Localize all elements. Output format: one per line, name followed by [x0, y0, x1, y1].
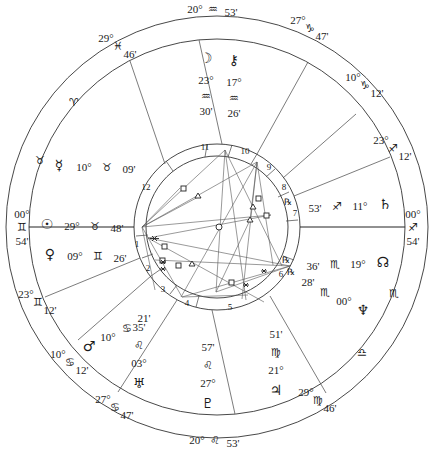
moon-degree: 23° — [198, 75, 213, 86]
pluto-degree: 27° — [200, 378, 215, 389]
moon-icon: ☽ — [200, 53, 213, 64]
cusp-11-degree: 27° — [290, 15, 305, 26]
sextile-aspect-icon — [261, 269, 267, 273]
libra-sign-icon: ♎ — [357, 347, 367, 358]
cusp-6-minute: 46' — [324, 403, 337, 414]
cusp-ht-left-sign-icon: ♓ — [113, 41, 123, 52]
house-number-10: 10 — [241, 146, 250, 157]
cusp-asc-sign-icon: ♊ — [17, 222, 27, 233]
mercury-degree: 10° — [76, 162, 91, 173]
cusp-4-pre-degree: 27° — [95, 394, 110, 405]
trine-aspect-icon — [250, 204, 256, 209]
house-number-9: 9 — [267, 162, 272, 173]
cusp-ht-left-degree: 29° — [98, 33, 113, 44]
square-aspect-icon — [256, 196, 261, 201]
cusp-12-minute: 12' — [371, 88, 384, 99]
sun-sign-icon: ♉ — [90, 221, 100, 232]
cusp-1-opp-degree: 23° — [373, 135, 388, 146]
mars-degree: 10° — [100, 332, 115, 343]
saturn-sign-icon: ♐ — [332, 201, 342, 212]
house-number-6: 6 — [279, 269, 284, 280]
cusp-mc-minute: 53' — [225, 7, 238, 18]
saturn-degree: 11° — [353, 201, 368, 212]
jupiter-icon: ♃ — [270, 385, 283, 396]
venus-minute: 26' — [114, 253, 127, 264]
house-number-2: 2 — [146, 263, 151, 274]
pluto-icon: ♇ — [202, 398, 215, 409]
cusp-ic-sign-icon: ♌ — [210, 435, 220, 446]
square-aspect-icon — [229, 280, 234, 285]
trine-aspect-icon — [195, 193, 201, 198]
cusp-11-sign-icon: ♑ — [305, 23, 315, 34]
venus-sign-icon: ♊ — [93, 251, 103, 262]
aries-sign-icon: ♈ — [69, 97, 79, 108]
square-aspect-icon — [176, 263, 181, 268]
uranus-sign-icon: ♌ — [134, 340, 144, 351]
jupiter-minute: 51' — [270, 329, 283, 340]
uranus-icon: ♅ — [133, 378, 146, 389]
sun-minute: 48' — [111, 223, 124, 234]
pluto-sign-icon: ♌ — [203, 360, 213, 371]
cusp-mc-sign-icon: ♒ — [208, 4, 218, 15]
chiron-degree: 17° — [226, 77, 241, 88]
conjunction-aspect-icon — [216, 224, 222, 230]
taurus-sign-icon: ♉ — [35, 155, 45, 166]
cusp-6-degree: 29° — [298, 387, 313, 398]
cusp-12-degree: 10° — [345, 72, 360, 83]
cusp-ic-minute: 53' — [227, 438, 240, 449]
mercury-minute: 09' — [123, 164, 136, 175]
chiron-icon: ⚷ — [229, 55, 239, 66]
jupiter-sign-icon: ♍ — [271, 347, 281, 358]
moon-minute: 30' — [200, 106, 213, 117]
neptune-retrograde-icon: ℞ — [287, 267, 295, 278]
square-aspect-icon — [264, 213, 269, 218]
cusp-asc-degree: 00° — [14, 209, 29, 220]
cusp-2-minute: 12' — [44, 305, 57, 316]
cusp-dsc-degree: 00° — [405, 209, 420, 220]
cusp-11-minute: 47' — [316, 31, 329, 42]
cusp-12-sign-icon: ♑ — [360, 80, 370, 91]
cusp-1-opp-sign-icon: ♐ — [388, 143, 398, 154]
cusp-dsc-sign-icon: ♐ — [408, 222, 418, 233]
sun-degree: 29° — [64, 221, 79, 232]
cusp-4-pre-minute: 47' — [121, 410, 134, 421]
north-node-minute: 36' — [307, 261, 320, 272]
moon-sign-icon: ♒ — [201, 91, 211, 102]
cusp-ht-left-minute: 46' — [124, 49, 137, 60]
scorpio-sign-icon: ♏ — [389, 288, 399, 299]
cusp-3-minute: 12' — [76, 365, 89, 376]
house-number-8: 8 — [282, 182, 287, 193]
house-number-3: 3 — [161, 284, 166, 295]
neptune-minute: 28' — [302, 277, 315, 288]
uranus-degree: 03° — [131, 358, 146, 369]
cusp-6-sign-icon: ♍ — [313, 395, 323, 406]
house-number-5: 5 — [228, 302, 233, 313]
neptune-sign-icon: ♏ — [320, 287, 330, 298]
house-number-12: 12 — [142, 182, 151, 193]
cusp-asc-minute: 54' — [16, 236, 29, 247]
mercury-icon: ☿ — [55, 160, 64, 171]
north-node-icon: ☊ — [377, 257, 389, 268]
venus-icon: ♀ — [45, 249, 55, 260]
chiron-minute: 26' — [228, 108, 241, 119]
cusp-2-degree: 23° — [18, 289, 33, 300]
cusp-4-pre-sign-icon: ♋ — [110, 402, 120, 413]
cusp-ic-degree: 20° — [189, 435, 204, 446]
saturn-retrograde-icon: ℞ — [284, 197, 292, 208]
saturn-icon: ♄ — [379, 199, 392, 210]
uranus-minute: 35' — [133, 322, 146, 333]
jupiter-degree: 21° — [268, 365, 283, 376]
cusp-3-sign-icon: ♋ — [65, 357, 75, 368]
sextile-markers — [150, 236, 267, 287]
house-number-1: 1 — [135, 239, 140, 250]
neptune-icon: ♆ — [357, 305, 370, 316]
venus-degree: 09° — [67, 251, 82, 262]
sun-icon: ☉ — [41, 219, 54, 230]
pluto-minute: 57' — [202, 342, 215, 353]
mercury-sign-icon: ♉ — [102, 162, 112, 173]
neptune-degree: 00° — [336, 296, 351, 307]
cusp-1-opp-minute: 12' — [399, 151, 412, 162]
cusp-mc-degree: 20° — [187, 4, 202, 15]
house-number-7: 7 — [293, 208, 298, 219]
house-number-11: 11 — [201, 142, 210, 153]
